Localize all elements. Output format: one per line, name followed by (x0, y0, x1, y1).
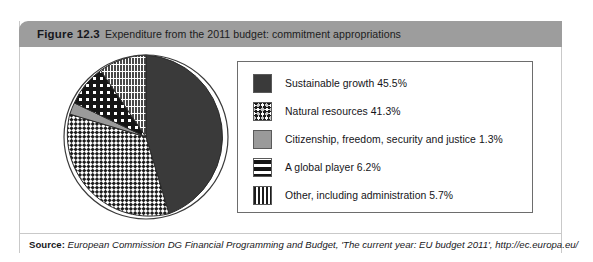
figure-number: Figure 12.3 (37, 28, 100, 40)
legend-item-natural-resources: Natural resources 41.3% (253, 98, 532, 125)
legend-item-citizenship: Citizenship, freedom, security and justi… (253, 126, 532, 153)
pie-chart-svg (63, 54, 229, 220)
legend-swatch-global-player (253, 158, 272, 177)
legend-swatch-other (253, 186, 272, 205)
pie-chart (63, 54, 229, 220)
chart-legend: Sustainable growth 45.5% Natural resourc… (237, 61, 533, 213)
source-label: Source: (29, 239, 65, 250)
legend-swatch-sustainable-growth (253, 74, 272, 93)
figure-header-bar: Figure 12.3 Expenditure from the 2011 bu… (19, 21, 562, 47)
legend-swatch-natural-resources (253, 102, 272, 121)
legend-item-other: Other, including administration 5.7% (253, 182, 532, 209)
legend-label-natural-resources: Natural resources 41.3% (285, 106, 401, 117)
source-line: Source: European Commission DG Financial… (29, 239, 578, 250)
legend-label-global-player: A global player 6.2% (285, 162, 381, 173)
pie-slices (67, 55, 222, 216)
legend-label-sustainable-growth: Sustainable growth 45.5% (285, 78, 407, 89)
legend-item-global-player: A global player 6.2% (253, 154, 532, 181)
source-text: European Commission DG Financial Program… (68, 239, 579, 250)
figure-title: Expenditure from the 2011 budget: commit… (105, 28, 401, 40)
legend-label-citizenship: Citizenship, freedom, security and justi… (285, 134, 503, 145)
legend-swatch-citizenship (253, 130, 272, 149)
figure-bottom-rule (19, 233, 562, 234)
chart-body: Sustainable growth 45.5% Natural resourc… (20, 47, 561, 228)
legend-label-other: Other, including administration 5.7% (285, 190, 453, 201)
legend-item-sustainable-growth: Sustainable growth 45.5% (253, 70, 532, 97)
